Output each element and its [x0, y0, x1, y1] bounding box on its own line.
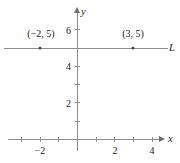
y-tick-3: [75, 84, 80, 85]
y-tick-label-4: 4: [60, 61, 71, 72]
point-dot-3-5: [132, 47, 135, 50]
x-axis: [8, 139, 160, 140]
line-L-label: L: [169, 42, 175, 53]
y-axis-label: y: [81, 6, 86, 17]
x-tick-4: [152, 137, 153, 142]
line-L: [4, 48, 168, 49]
x-tick-3: [133, 137, 134, 142]
point-dot-minus2-5: [38, 47, 41, 50]
point-label-minus2-5: (−2, 5): [27, 28, 54, 39]
coordinate-plane-figure: x y −2 2 4 6 4 2 L (−2, 5) (3, 5): [0, 0, 180, 163]
y-tick-2: [75, 102, 80, 103]
y-tick-1: [75, 121, 80, 122]
x-tick-label-2: 2: [113, 145, 118, 156]
x-tick-minus2: [40, 137, 41, 142]
x-axis-arrow-icon: [159, 136, 165, 142]
x-tick-label-minus2: −2: [35, 145, 46, 156]
y-axis-arrow-icon: [74, 7, 80, 13]
y-tick-label-2: 2: [60, 97, 71, 108]
y-tick-label-6: 6: [60, 24, 71, 35]
x-axis-label: x: [168, 133, 173, 144]
y-tick-4: [75, 66, 80, 67]
x-tick-minus1: [58, 137, 59, 142]
x-tick-2: [114, 137, 115, 142]
x-tick-label-4: 4: [150, 145, 155, 156]
x-tick-minus3: [21, 137, 22, 142]
y-axis: [77, 12, 78, 151]
y-tick-6: [75, 29, 80, 30]
x-tick-1: [96, 137, 97, 142]
point-label-3-5: (3, 5): [122, 28, 144, 39]
